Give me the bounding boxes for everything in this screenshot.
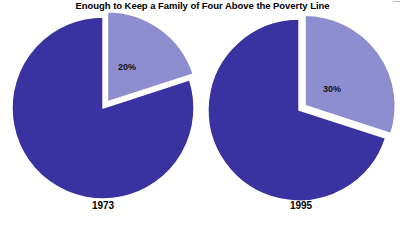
pie-chart-figure: Enough to Keep a Family of Four Above th… <box>0 0 405 227</box>
pie-year-label-1973: 1973 <box>63 200 143 211</box>
pie-slice-label-1995: 30% <box>323 84 341 94</box>
pie-slice-label-1973: 20% <box>118 62 136 72</box>
pie-year-label-1995: 1995 <box>261 200 341 211</box>
pie-chart-1995 <box>0 0 405 227</box>
